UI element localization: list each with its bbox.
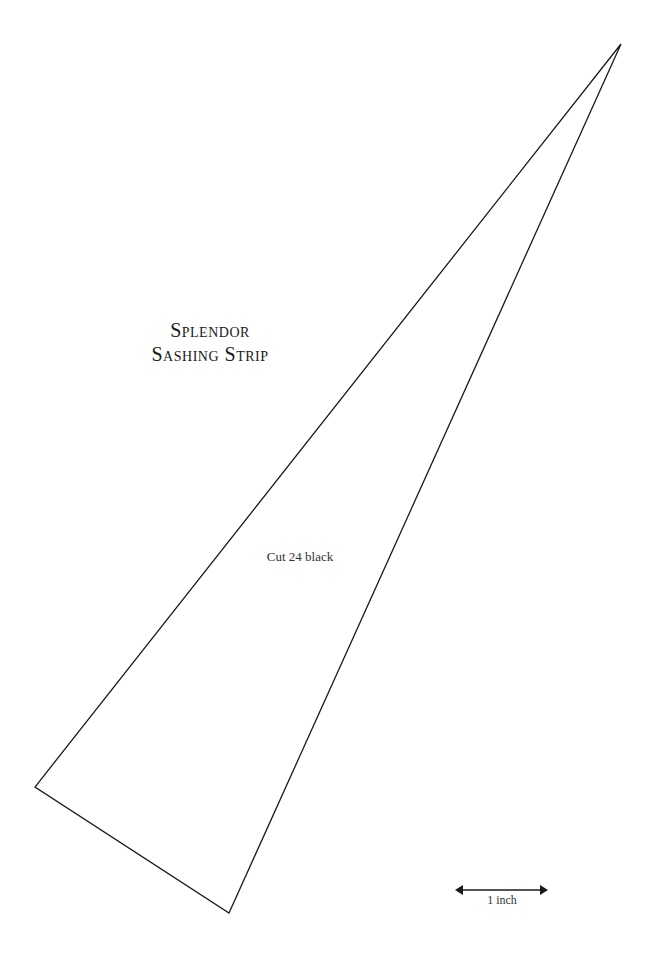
scale-label: 1 inch (452, 893, 552, 908)
cut-instruction: Cut 24 black (238, 549, 362, 565)
sashing-strip-template-shape (35, 44, 621, 913)
pattern-title-line2: Sashing Strip (110, 342, 310, 366)
pattern-title-line1: Splendor (110, 318, 310, 342)
pattern-diagram (0, 0, 654, 969)
pattern-title: Splendor Sashing Strip (110, 318, 310, 366)
